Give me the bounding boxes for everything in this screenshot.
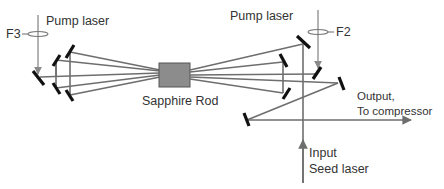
sapphire-rod [159,63,190,87]
mirror-icon [339,77,344,90]
lens-f3-label: F3 [6,27,21,41]
input-label-line1: Input [309,146,337,160]
pump-left-group [22,15,48,74]
multipass-amplifier-diagram: Pump laser F3 Pump laser F2 Sapphire Rod… [0,0,444,189]
mirror-icon [283,88,290,99]
output-label-line1: Output, [357,90,395,102]
input-label-line2: Seed laser [309,162,369,176]
output-label-line2: To compressor [357,105,433,117]
left-mirror-array [33,45,74,101]
pump-right-label: Pump laser [230,9,293,23]
pump-left-label: Pump laser [46,14,109,28]
sapphire-rod-label: Sapphire Rod [142,94,218,108]
pump-right-group [308,10,334,68]
lens-f2-label: F2 [336,25,351,39]
mirror-icon [313,67,321,79]
